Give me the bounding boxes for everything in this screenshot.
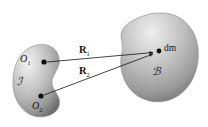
mass-element-dot [157, 49, 162, 54]
figure-canvas [0, 0, 208, 127]
body-j-shape [13, 44, 60, 116]
physics-figure: O1 O2 dm R1 R2 ℐ ℬ [0, 0, 208, 127]
origin-1-dot [41, 59, 46, 64]
body-b-shape [121, 13, 199, 102]
origin-2-dot [38, 93, 43, 98]
